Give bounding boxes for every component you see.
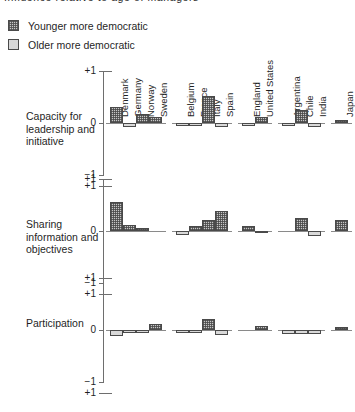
bar-p2-japan (335, 327, 348, 330)
zero-baseline-p0-g4 (331, 123, 352, 124)
axis-top-bracket-2 (104, 278, 112, 279)
bar-p0-japan (335, 120, 348, 123)
tick-plus-one-label-2: +1 (74, 272, 96, 283)
bar-p1-japan (335, 220, 348, 231)
bar-p2-belgium (176, 330, 189, 333)
bar-p2-argentina (282, 330, 295, 334)
next-panel-top-bracket-2 (104, 393, 112, 394)
bar-p2-italy (202, 319, 215, 330)
country-label-japan: Japan (345, 91, 355, 117)
bar-p2-norway (136, 330, 149, 333)
bar-p2-denmark (110, 330, 123, 336)
zero-baseline-p2-g2 (238, 330, 272, 331)
tick-minus-one-mark-2 (99, 382, 104, 383)
zero-baseline-p1-g4 (331, 231, 352, 232)
bar-p2-sweden (149, 324, 162, 330)
zero-baseline-p2-g4 (331, 330, 352, 331)
next-panel-tick-label-2: +1 (74, 387, 96, 398)
bar-p2-france (189, 330, 202, 333)
bar-p2-spain (215, 330, 228, 335)
bar-p2-india (308, 330, 321, 334)
tick-zero-label-2: 0 (74, 324, 96, 335)
bar-p2-chile (295, 330, 308, 334)
tick-minus-one-label-2: −1 (74, 376, 96, 387)
tick-zero-mark-2 (99, 330, 104, 331)
bar-p2-united-states (255, 326, 268, 330)
bar-p2-germany (123, 330, 136, 333)
